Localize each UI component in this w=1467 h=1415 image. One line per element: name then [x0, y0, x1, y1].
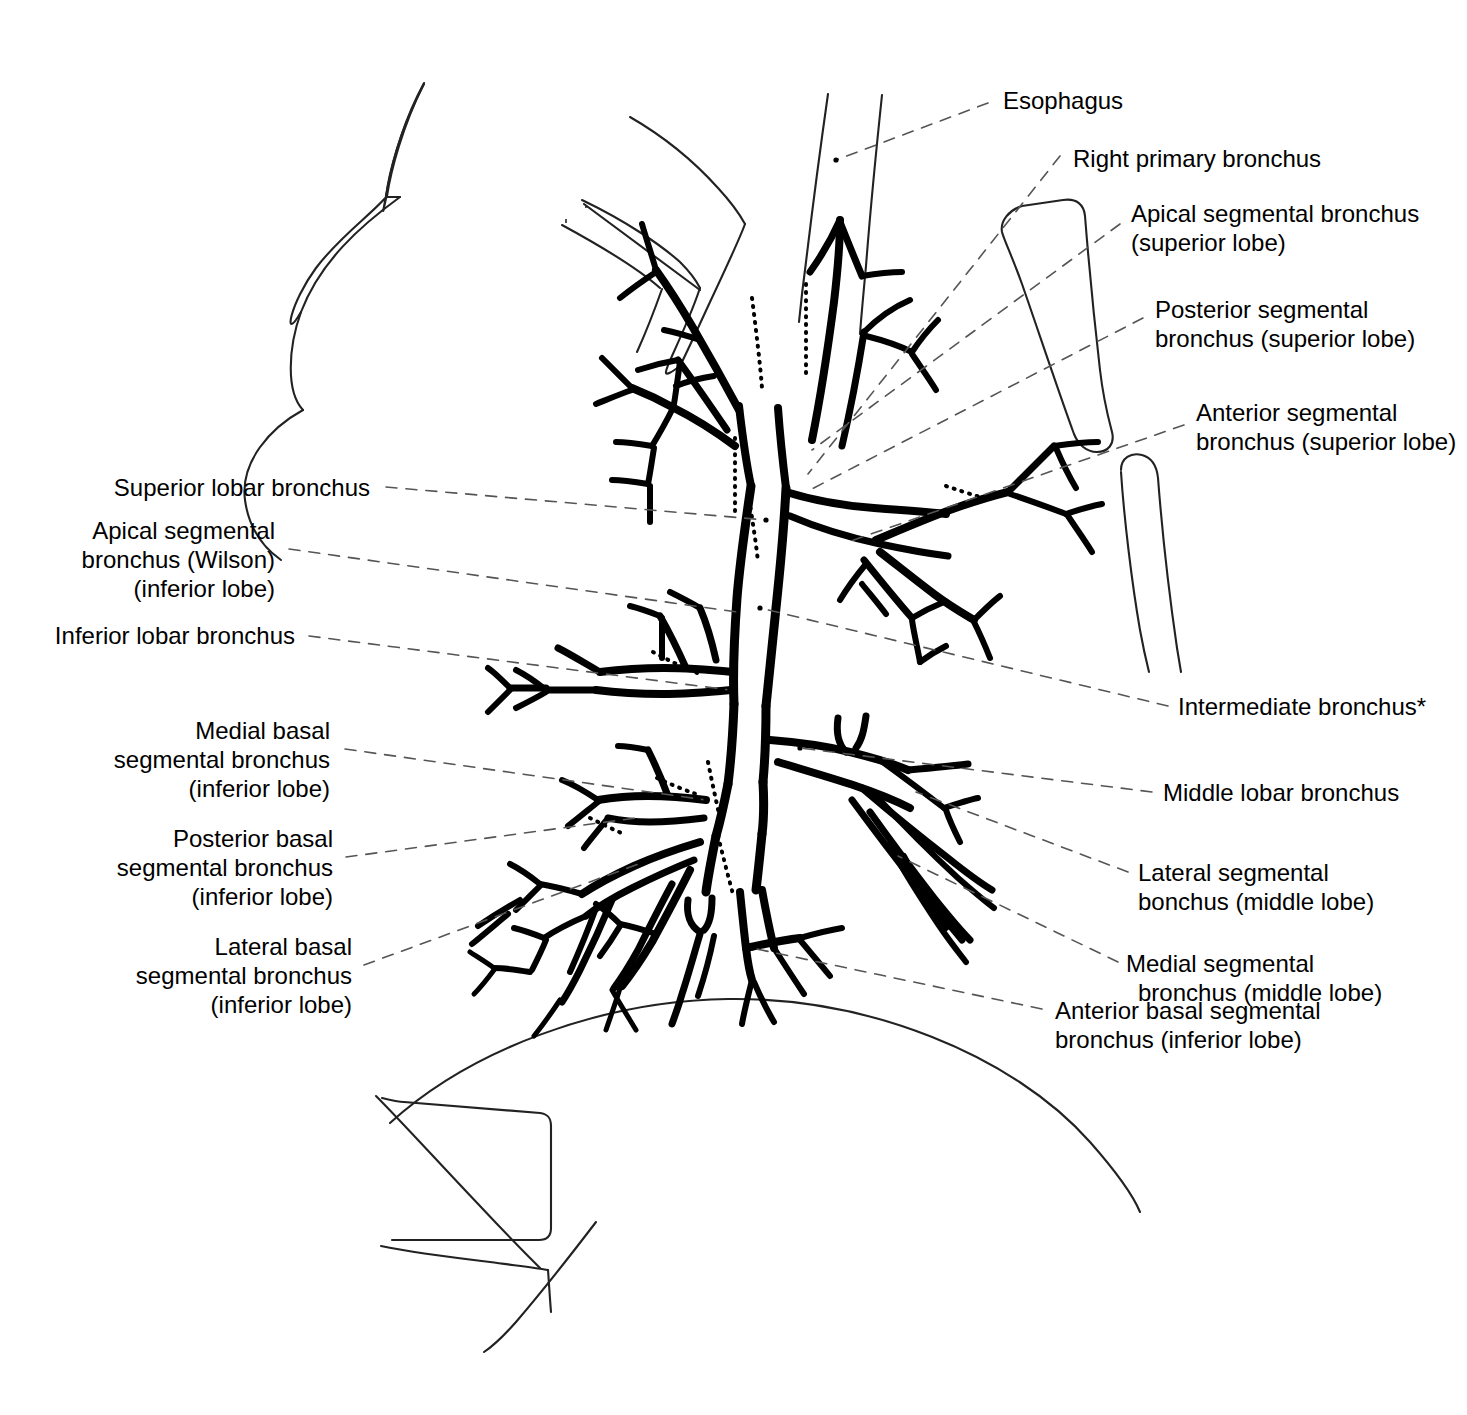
label-posterior-basal-inferior: Posterior basal segmental bronchus (infe… — [0, 824, 333, 911]
leader-dot-superior-lobar — [763, 517, 768, 522]
leader-posterior-basal-inferior — [346, 818, 636, 857]
label-intermediate-bronchus: Intermediate bronchus* — [1178, 692, 1426, 721]
label-apical-segmental-superior-line1: Apical segmental bronchus — [1131, 199, 1419, 228]
label-anterior-basal-inferior-line2: bronchus (inferior lobe) — [1055, 1025, 1320, 1054]
label-posterior-basal-inferior-line3: (inferior lobe) — [0, 882, 333, 911]
label-apical-segmental-wilson-line1: Apical segmental — [0, 516, 275, 545]
leader-esophagus — [836, 103, 988, 160]
leader-dot-intermediate — [757, 605, 762, 610]
leader-posterior-segmental-superior — [806, 318, 1143, 492]
leader-superior-lobar-bronchus — [386, 487, 766, 520]
leader-medial-segmental-middle — [898, 856, 1118, 962]
leader-dot-anterior-basal — [749, 945, 754, 950]
label-lateral-basal-inferior-line2: segmental bronchus — [0, 961, 352, 990]
label-lateral-basal-inferior-line3: (inferior lobe) — [0, 990, 352, 1019]
leader-dot-esophagus — [833, 157, 838, 162]
label-apical-segmental-superior-line2: (superior lobe) — [1131, 228, 1419, 257]
label-inferior-lobar-bronchus: Inferior lobar bronchus — [0, 621, 295, 650]
leader-dot-inferior-lobar — [727, 687, 732, 692]
leader-apical-segmental-superior — [812, 224, 1120, 450]
label-lateral-basal-inferior-line1: Lateral basal — [0, 932, 352, 961]
label-anterior-segmental-superior-line2: bronchus (superior lobe) — [1196, 427, 1456, 456]
leader-inferior-lobar-bronchus — [309, 636, 730, 690]
label-lateral-segmental-middle-line2: bonchus (middle lobe) — [1138, 887, 1374, 916]
leader-middle-lobar-bronchus — [800, 748, 1152, 792]
label-apical-segmental-wilson: Apical segmental bronchus (Wilson) (infe… — [0, 516, 275, 603]
label-posterior-basal-inferior-line2: segmental bronchus — [0, 853, 333, 882]
label-posterior-segmental-superior-line1: Posterior segmental — [1155, 295, 1415, 324]
label-medial-basal-inferior-line1: Medial basal — [0, 716, 330, 745]
label-lateral-segmental-middle: Lateral segmental bonchus (middle lobe) — [1138, 858, 1374, 916]
label-posterior-segmental-superior-line2: bronchus (superior lobe) — [1155, 324, 1415, 353]
label-medial-segmental-middle-line1: Medial segmental — [1126, 949, 1382, 978]
figure-canvas: Esophagus Right primary bronchus Apical … — [0, 0, 1467, 1415]
leader-medial-basal-inferior — [345, 749, 706, 800]
label-right-primary-bronchus: Right primary bronchus — [1073, 144, 1321, 173]
label-anterior-segmental-superior: Anterior segmental bronchus (superior lo… — [1196, 398, 1456, 456]
label-apical-segmental-wilson-line2: bronchus (Wilson) — [0, 545, 275, 574]
label-anterior-basal-inferior-line1: Anterior basal segmental — [1055, 996, 1320, 1025]
label-lateral-basal-inferior: Lateral basal segmental bronchus (inferi… — [0, 932, 352, 1019]
leader-lateral-segmental-middle — [916, 792, 1128, 872]
label-medial-basal-inferior: Medial basal segmental bronchus (inferio… — [0, 716, 330, 803]
label-superior-lobar-bronchus: Superior lobar bronchus — [0, 473, 370, 502]
label-apical-segmental-superior: Apical segmental bronchus (superior lobe… — [1131, 199, 1419, 257]
leader-dot-medial-basal — [703, 797, 708, 802]
label-posterior-basal-inferior-line1: Posterior basal — [0, 824, 333, 853]
leader-apical-segmental-wilson — [289, 549, 737, 612]
label-medial-basal-inferior-line2: segmental bronchus — [0, 745, 330, 774]
leader-lateral-basal-inferior — [364, 862, 644, 965]
leader-anterior-segmental-superior — [848, 425, 1184, 542]
label-apical-segmental-wilson-line3: (inferior lobe) — [0, 574, 275, 603]
label-medial-basal-inferior-line3: (inferior lobe) — [0, 774, 330, 803]
label-esophagus: Esophagus — [1003, 86, 1123, 115]
leader-endpoint-dots — [703, 157, 838, 950]
label-middle-lobar-bronchus: Middle lobar bronchus — [1163, 778, 1399, 807]
leader-intermediate-bronchus — [760, 608, 1168, 706]
leader-right-primary-bronchus — [808, 156, 1060, 474]
label-anterior-basal-inferior: Anterior basal segmental bronchus (infer… — [1055, 996, 1320, 1054]
label-lateral-segmental-middle-line1: Lateral segmental — [1138, 858, 1374, 887]
leader-anterior-basal-inferior — [752, 948, 1042, 1009]
label-posterior-segmental-superior: Posterior segmental bronchus (superior l… — [1155, 295, 1415, 353]
leader-dot-middle-lobar — [797, 745, 802, 750]
label-anterior-segmental-superior-line1: Anterior segmental — [1196, 398, 1456, 427]
